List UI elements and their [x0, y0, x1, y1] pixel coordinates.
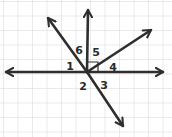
angle-label-4: 4 [109, 62, 117, 73]
angle-diagram: 123456 [0, 0, 172, 137]
angle-label-2: 2 [79, 81, 87, 92]
diagram-svg [0, 0, 172, 137]
angle-label-5: 5 [92, 47, 100, 58]
angle-label-3: 3 [100, 80, 108, 91]
ray-up [87, 10, 88, 72]
angle-label-6: 6 [75, 45, 83, 56]
angle-label-1: 1 [66, 61, 74, 72]
